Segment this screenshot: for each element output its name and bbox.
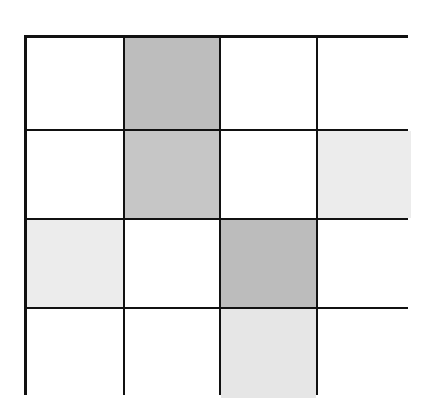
grid-cell-r2-c1 <box>125 220 219 307</box>
grid-cell-r0-c1 <box>125 38 219 129</box>
grid-cell-r2-c3 <box>318 220 411 307</box>
grid-cell-r2-c2 <box>221 220 316 307</box>
grid-cell-r1-c2 <box>221 131 316 218</box>
grid-cell-r3-c0 <box>27 309 123 398</box>
grid-cell-r1-c3 <box>318 131 411 218</box>
grid-cell-r0-c3 <box>318 38 411 129</box>
grid-cell-r0-c0 <box>27 38 123 129</box>
grid-cell-r3-c3 <box>318 309 411 398</box>
shaded-grid <box>24 35 408 395</box>
grid-cell-r2-c0 <box>27 220 123 307</box>
grid-cell-r0-c2 <box>221 38 316 129</box>
grid-cell-r1-c0 <box>27 131 123 218</box>
grid-cell-r3-c2 <box>221 309 316 398</box>
grid-cell-r3-c1 <box>125 309 219 398</box>
grid-cell-r1-c1 <box>125 131 219 218</box>
